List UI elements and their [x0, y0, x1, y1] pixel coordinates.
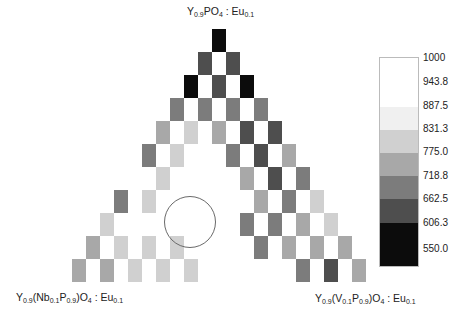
heatmap-cell [254, 190, 268, 213]
heatmap-cell [352, 259, 366, 282]
heatmap-cell [254, 98, 268, 121]
heatmap-cell [226, 98, 240, 121]
highlight-circle [164, 196, 216, 248]
colorbar-tick-label: 662.5 [423, 193, 448, 204]
colorbar-band [380, 58, 418, 84]
heatmap-cell [240, 213, 254, 236]
heatmap-cell [212, 167, 226, 190]
heatmap-cell [296, 213, 310, 236]
heatmap-cell [310, 236, 324, 259]
colorbar-band [380, 223, 418, 267]
colorbar-tick-label: 775.0 [423, 146, 448, 157]
heatmap-cell [268, 121, 282, 144]
vertex-label-top: Y0.9PO4 : Eu0.1 [187, 5, 254, 18]
heatmap-cell [142, 190, 156, 213]
heatmap-cell [198, 52, 212, 75]
heatmap-cell [240, 75, 254, 98]
heatmap-cell [156, 121, 170, 144]
colorbar-band [380, 130, 418, 153]
heatmap-cell [184, 167, 198, 190]
heatmap-cell [282, 236, 296, 259]
heatmap-cell [184, 121, 198, 144]
heatmap-cell [212, 259, 226, 282]
heatmap-cell [184, 259, 198, 282]
heatmap-cell [240, 121, 254, 144]
heatmap-cell [86, 236, 100, 259]
ternary-heatmap: Y0.9PO4 : Eu0.1 Y0.9(Nb0.1P0.9)O4 : Eu0.… [0, 0, 461, 319]
heatmap-cell [114, 236, 128, 259]
heatmap-cell [142, 144, 156, 167]
heatmap-cell [240, 167, 254, 190]
colorbar-tick-label: 550.0 [423, 243, 448, 254]
heatmap-cell [128, 259, 142, 282]
heatmap-cell [296, 167, 310, 190]
heatmap-cell [296, 259, 310, 282]
heatmap-cell [128, 167, 142, 190]
colorbar-tick-label: 606.3 [423, 217, 448, 228]
heatmap-cell [240, 259, 254, 282]
heatmap-cell [198, 144, 212, 167]
heatmap-cell [212, 29, 226, 52]
heatmap-cell [156, 167, 170, 190]
vertex-label-bottom-right: Y0.9(V0.1P0.9)O4 : Eu0.1 [315, 292, 416, 305]
colorbar-band [380, 176, 418, 199]
heatmap-cell [184, 75, 198, 98]
colorbar-tick-label: 887.5 [423, 100, 448, 111]
vertex-label-bottom-left: Y0.9(Nb0.1P0.9)O4 : Eu0.1 [16, 291, 123, 304]
colorbar-band [380, 84, 418, 107]
heatmap-cell [268, 213, 282, 236]
heatmap-cell [338, 236, 352, 259]
colorbar [379, 57, 419, 267]
heatmap-cell [254, 236, 268, 259]
heatmap-cell [310, 190, 324, 213]
heatmap-cell [226, 52, 240, 75]
heatmap-cell [324, 259, 338, 282]
heatmap-cell [268, 167, 282, 190]
heatmap-cell [156, 259, 170, 282]
heatmap-cell [142, 236, 156, 259]
colorbar-band [380, 107, 418, 130]
heatmap-cell [282, 190, 296, 213]
heatmap-cell [212, 121, 226, 144]
heatmap-cell [212, 75, 226, 98]
colorbar-band [380, 153, 418, 176]
heatmap-cell [170, 98, 184, 121]
heatmap-cell [170, 144, 184, 167]
heatmap-cell [100, 213, 114, 236]
heatmap-cell [324, 213, 338, 236]
colorbar-band [380, 199, 418, 223]
heatmap-cell [128, 213, 142, 236]
heatmap-cell [226, 190, 240, 213]
heatmap-cell [226, 144, 240, 167]
heatmap-cell [226, 236, 240, 259]
colorbar-tick-label: 943.8 [423, 76, 448, 87]
heatmap-cell [198, 98, 212, 121]
heatmap-cell [268, 259, 282, 282]
heatmap-cell [282, 144, 296, 167]
heatmap-cell [100, 259, 114, 282]
heatmap-cell [114, 190, 128, 213]
colorbar-tick-label: 831.3 [423, 123, 448, 134]
colorbar-tick-label: 1000 [423, 52, 445, 63]
heatmap-cell [254, 144, 268, 167]
colorbar-tick-label: 718.8 [423, 170, 448, 181]
heatmap-cell [72, 259, 86, 282]
